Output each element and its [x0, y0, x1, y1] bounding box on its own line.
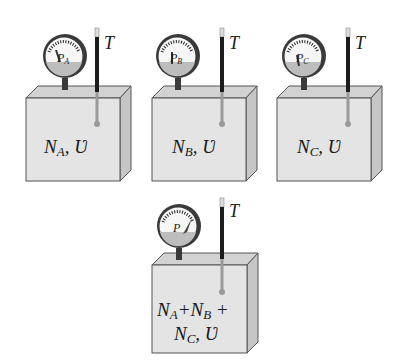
contents-label-c: NC, Ʋ	[296, 136, 341, 159]
box-side-face	[247, 253, 258, 353]
contents-label-b: NB, Ʋ	[171, 136, 215, 159]
container-b: PB T NB, Ʋ	[152, 28, 257, 181]
box-top-face	[26, 86, 131, 98]
container-a: PA T NA, Ʋ	[26, 28, 131, 181]
gauge-stem	[176, 248, 182, 260]
gauge-stem	[62, 78, 68, 90]
contents-label-a: NA, Ʋ	[43, 136, 87, 159]
temperature-label: T	[229, 33, 241, 53]
contents-label-mixture-line2: NC, Ʋ	[173, 323, 218, 346]
pressure-gauge-icon: PB	[156, 34, 200, 78]
temperature-label: T	[104, 33, 116, 53]
box-side-face	[120, 86, 131, 181]
temperature-label: T	[229, 201, 241, 221]
pressure-gauge-icon: P	[157, 204, 201, 248]
box-top-face	[277, 86, 382, 98]
pressure-gauge-icon: PA	[43, 34, 87, 78]
diagram-canvas: PA T NA, Ʋ PB T N	[0, 0, 407, 364]
container-mixture: P T NA+NB + NC, Ʋ	[152, 198, 258, 353]
container-c: PC T NC, Ʋ	[277, 28, 382, 181]
box-side-face	[246, 86, 257, 181]
box-side-face	[371, 86, 382, 181]
temperature-label: T	[355, 33, 367, 53]
gauge-stem	[175, 78, 181, 90]
box-top-face	[152, 86, 257, 98]
box-top-face	[152, 253, 258, 265]
gauge-stem	[301, 78, 307, 90]
contents-label-mixture-line1: NA+NB +	[156, 299, 229, 322]
pressure-gauge-icon: PC	[282, 34, 326, 78]
gauge-label-p: P	[172, 221, 181, 235]
